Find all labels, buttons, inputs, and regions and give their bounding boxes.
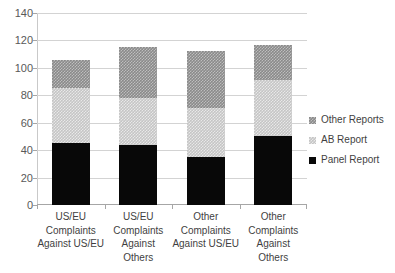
x-axis-category-label-line: Complaints bbox=[37, 224, 105, 238]
x-axis-tick-mark bbox=[37, 205, 38, 209]
bar-segment[interactable] bbox=[187, 108, 225, 157]
bar-segment[interactable] bbox=[52, 143, 90, 205]
legend-swatch-icon bbox=[309, 157, 316, 164]
x-axis-category-label: OtherComplaintsAgainst US/EU bbox=[172, 210, 240, 251]
x-axis-category-label-line: Complaints bbox=[172, 224, 240, 238]
legend-item[interactable]: AB Report bbox=[309, 130, 395, 150]
bar-segment[interactable] bbox=[254, 136, 292, 205]
y-axis-tick-mark bbox=[33, 178, 37, 179]
y-axis-tick-mark bbox=[33, 95, 37, 96]
bar-segment[interactable] bbox=[254, 45, 292, 81]
legend-swatch-icon bbox=[309, 137, 316, 144]
y-axis-tick-label: 80 bbox=[1, 90, 33, 101]
x-axis-category-label-line: Other bbox=[172, 210, 240, 224]
y-axis-tick-label: 140 bbox=[1, 8, 33, 19]
x-axis-tick-mark bbox=[306, 205, 307, 209]
y-axis-tick-mark bbox=[33, 68, 37, 69]
bar-segment[interactable] bbox=[52, 88, 90, 143]
x-axis-tick-mark bbox=[172, 205, 173, 209]
bar-segment[interactable] bbox=[254, 80, 292, 136]
stacked-bar-chart: 020406080100120140 US/EUComplaintsAgains… bbox=[0, 0, 395, 273]
x-axis-category-label: US/EUComplaintsAgainstOthers bbox=[104, 210, 172, 264]
x-axis-tick-mark bbox=[105, 205, 106, 209]
x-axis-category-label-line: Others bbox=[104, 251, 172, 265]
y-axis-line bbox=[37, 13, 38, 205]
y-axis-tick-label: 100 bbox=[1, 63, 33, 74]
y-axis-tick-label: 20 bbox=[1, 173, 33, 184]
y-axis-tick-label: 0 bbox=[1, 200, 33, 211]
legend-item[interactable]: Other Reports bbox=[309, 110, 395, 130]
x-axis-category-label-line: Complaints bbox=[239, 224, 307, 238]
bar-segment[interactable] bbox=[119, 98, 157, 145]
legend-item-label: Panel Report bbox=[321, 155, 379, 165]
x-axis-category-label-line: Against bbox=[104, 237, 172, 251]
y-axis-tick-label: 60 bbox=[1, 118, 33, 129]
y-axis-tick-mark bbox=[33, 13, 37, 14]
y-axis-tick-mark bbox=[33, 150, 37, 151]
y-axis-labels: 020406080100120140 bbox=[0, 13, 33, 205]
legend-item-label: Other Reports bbox=[321, 115, 384, 125]
legend-swatch-icon bbox=[309, 117, 316, 124]
y-axis-tick-mark bbox=[33, 123, 37, 124]
bar-segment[interactable] bbox=[52, 60, 90, 89]
y-axis-tick-mark bbox=[33, 205, 37, 206]
x-axis-category-label-line: US/EU bbox=[104, 210, 172, 224]
x-axis-tick-mark bbox=[240, 205, 241, 209]
bar-segment[interactable] bbox=[187, 157, 225, 205]
bar-segment[interactable] bbox=[187, 51, 225, 107]
plot-area bbox=[37, 13, 307, 205]
x-axis-category-label-line: Complaints bbox=[104, 224, 172, 238]
x-axis-category-label-line: Against US/EU bbox=[172, 237, 240, 251]
x-axis-category-label-line: US/EU bbox=[37, 210, 105, 224]
x-axis-category-label-line: Against bbox=[239, 237, 307, 251]
x-axis-category-labels: US/EUComplaintsAgainst US/EUUS/EUComplai… bbox=[37, 210, 307, 270]
y-axis-tick-mark bbox=[33, 40, 37, 41]
y-axis-tick-label: 120 bbox=[1, 35, 33, 46]
x-axis-category-label: US/EUComplaintsAgainst US/EU bbox=[37, 210, 105, 251]
bar-segment[interactable] bbox=[119, 145, 157, 205]
chart-legend: Other ReportsAB ReportPanel Report bbox=[309, 110, 395, 170]
gridline bbox=[37, 40, 307, 41]
gridline bbox=[37, 13, 307, 14]
x-axis-category-label: OtherComplaintsAgainstOthers bbox=[239, 210, 307, 264]
x-axis-category-label-line: Others bbox=[239, 251, 307, 265]
legend-item[interactable]: Panel Report bbox=[309, 150, 395, 170]
legend-item-label: AB Report bbox=[321, 135, 367, 145]
x-axis-category-label-line: Against US/EU bbox=[37, 237, 105, 251]
y-axis-tick-label: 40 bbox=[1, 145, 33, 156]
x-axis-category-label-line: Other bbox=[239, 210, 307, 224]
bar-segment[interactable] bbox=[119, 47, 157, 98]
